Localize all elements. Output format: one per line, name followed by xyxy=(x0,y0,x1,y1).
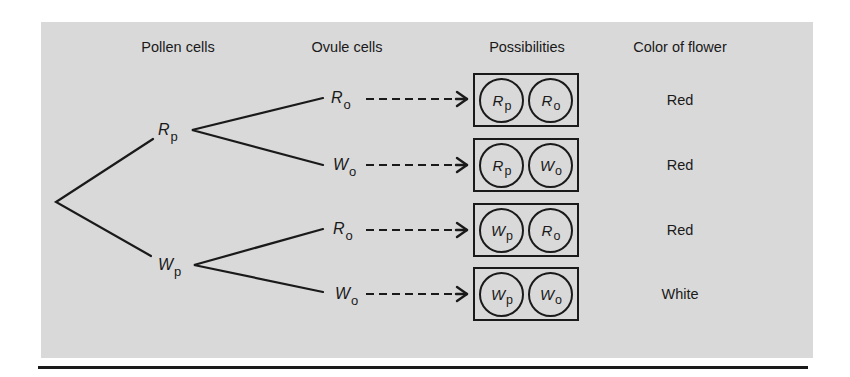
rp-branch xyxy=(192,98,323,165)
allele-circle: Wp xyxy=(479,272,524,317)
ovule-node-wo: Wo xyxy=(335,286,357,302)
header-ovule-cells: Ovule cells xyxy=(312,39,383,55)
header-possibilities: Possibilities xyxy=(489,39,565,55)
flower-color: Red xyxy=(667,157,694,173)
allele-circle: Ro xyxy=(528,78,573,123)
allele-circle: Rp xyxy=(479,143,524,188)
header-color-of-flower: Color of flower xyxy=(633,39,726,55)
pollen-node-rp: Rp xyxy=(158,122,177,138)
root-branch xyxy=(56,139,153,256)
wp-branch xyxy=(194,229,323,292)
ovule-node-wo: Wo xyxy=(333,157,355,173)
possibility-box: Rp Ro xyxy=(473,73,579,127)
allele-circle: Wp xyxy=(479,208,524,253)
allele-circle: Ro xyxy=(528,208,573,253)
tree-lines xyxy=(0,0,850,377)
possibility-box: Rp Wo xyxy=(473,138,579,192)
possibility-box: Wp Wo xyxy=(473,267,579,321)
ovule-node-ro: Ro xyxy=(331,90,350,106)
allele-circle: Rp xyxy=(479,78,524,123)
flower-color: Red xyxy=(667,222,694,238)
header-pollen-cells: Pollen cells xyxy=(141,39,214,55)
flower-color: White xyxy=(661,286,698,302)
pollen-node-wp: Wp xyxy=(158,257,180,273)
allele-circle: Wo xyxy=(528,272,573,317)
allele-circle: Wo xyxy=(528,143,573,188)
ovule-node-ro: Ro xyxy=(333,221,352,237)
flower-color: Red xyxy=(667,92,694,108)
possibility-box: Wp Ro xyxy=(473,203,579,257)
